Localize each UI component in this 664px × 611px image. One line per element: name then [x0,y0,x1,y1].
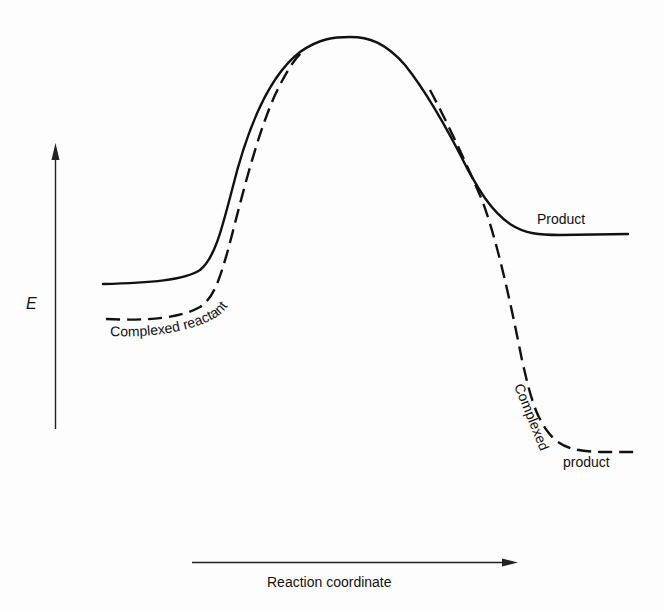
complexed-energy-curve-descent [430,90,638,452]
complexed-product-word-label: product [563,454,610,470]
reaction-energy-diagram: E Reaction coordinate Product Complexed … [0,0,664,611]
x-axis-label: Reaction coordinate [267,574,392,590]
product-label: Product [537,211,585,227]
complexed-word-label: Complexed [511,381,552,453]
y-axis-label: E [26,295,37,312]
uncomplexed-energy-curve [103,37,628,284]
complexed-word-text: Complexed [511,381,552,453]
x-axis: Reaction coordinate [192,559,518,591]
complexed-energy-curve [106,50,305,320]
x-axis-arrow-icon [502,559,518,567]
y-axis-arrow-icon [52,143,60,160]
y-axis: E [26,143,60,429]
